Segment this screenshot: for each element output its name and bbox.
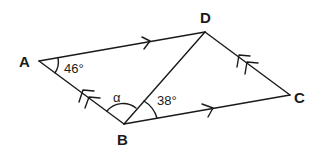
parallelogram-diagram: A B C D 46° α 38° (0, 0, 321, 155)
side-cb (124, 95, 290, 124)
vertex-label-b: B (117, 131, 128, 148)
angle-label-a: 46° (64, 61, 84, 76)
parallel-arrow-cd-2 (245, 62, 258, 74)
angle-arc-alpha (107, 104, 136, 111)
angle-arc-dbc (144, 101, 157, 118)
angle-label-alpha: α (113, 90, 121, 105)
side-ad (39, 32, 205, 61)
diagonal-bd (124, 32, 205, 124)
vertex-label-a: A (19, 53, 30, 70)
side-dc (205, 32, 290, 95)
angle-arc-a (55, 58, 58, 73)
parallel-arrow-ba-2 (85, 97, 100, 108)
angle-label-dbc: 38° (157, 93, 177, 108)
vertex-label-d: D (200, 9, 211, 26)
vertex-label-c: C (294, 89, 305, 106)
